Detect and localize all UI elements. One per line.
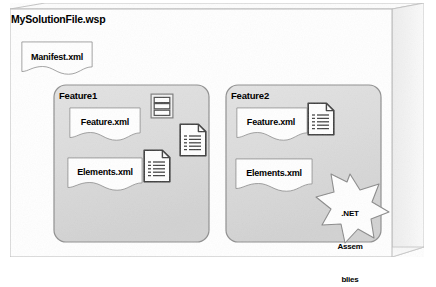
feature1-file-list-icon-right — [180, 124, 206, 156]
solution-package-diagram — [0, 0, 436, 287]
diagram-canvas: MySolutionFile.wsp Manifest.xml Feature1… — [0, 0, 436, 287]
feature2-file-list-icon — [308, 103, 334, 135]
feature1-file-list-icon-left — [144, 150, 170, 182]
feature1-stack-icon — [151, 94, 173, 118]
package-top-face — [10, 3, 424, 9]
package-side-face — [392, 3, 424, 257]
feature2-container — [226, 85, 389, 243]
feature1-container — [54, 85, 209, 242]
